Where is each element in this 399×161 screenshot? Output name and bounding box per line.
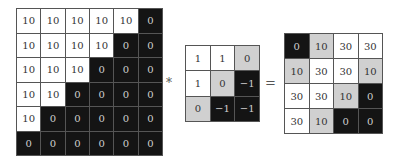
input-cell: 0 [139,132,162,156]
input-cell: 0 [41,107,64,131]
kernel-cell: 0 [235,46,259,70]
kernel-cell: 0 [211,71,235,95]
input-matrix: 1010101010010101010001010100001010000010… [16,8,163,156]
input-cell: 10 [17,9,40,33]
input-cell: 0 [17,132,40,156]
input-cell: 0 [139,34,162,58]
kernel-matrix: 11010−10−1−1 [185,45,260,122]
input-cell: 0 [139,83,162,107]
input-cell: 10 [41,9,64,33]
output-cell: 30 [310,84,334,108]
output-cell: 0 [285,34,309,58]
input-cell: 10 [17,34,40,58]
input-cell: 10 [66,34,89,58]
input-cell: 10 [66,58,89,82]
output-cell: 30 [285,109,309,133]
output-cell: 10 [310,109,334,133]
kernel-cell: −1 [235,71,259,95]
input-cell: 10 [17,107,40,131]
input-cell: 0 [41,132,64,156]
kernel-cell: 0 [186,97,210,121]
input-cell: 0 [114,83,137,107]
convolution-operator: * [166,76,172,90]
input-cell: 10 [17,58,40,82]
input-cell: 0 [139,107,162,131]
input-cell: 10 [41,58,64,82]
input-cell: 0 [66,107,89,131]
input-cell: 10 [41,83,64,107]
kernel-cell: −1 [211,97,235,121]
output-cell: 30 [334,59,358,83]
output-cell: 30 [359,34,383,58]
input-cell: 0 [66,132,89,156]
kernel-cell: 1 [186,46,210,70]
input-cell: 0 [114,58,137,82]
input-cell: 0 [139,58,162,82]
input-cell: 10 [66,9,89,33]
input-cell: 10 [90,9,113,33]
output-cell: 30 [310,59,334,83]
output-matrix: 0103030103030103030100301000 [284,33,383,134]
input-cell: 0 [114,132,137,156]
equals-operator: = [265,75,276,90]
input-cell: 0 [90,58,113,82]
output-cell: 10 [285,59,309,83]
output-cell: 0 [334,109,358,133]
output-cell: 10 [310,34,334,58]
output-cell: 10 [359,59,383,83]
input-cell: 10 [41,34,64,58]
output-cell: 0 [359,84,383,108]
output-cell: 30 [285,84,309,108]
kernel-cell: −1 [235,97,259,121]
input-cell: 10 [114,9,137,33]
input-cell: 10 [90,34,113,58]
kernel-cell: 1 [211,46,235,70]
input-cell: 0 [66,83,89,107]
input-cell: 0 [114,34,137,58]
input-cell: 0 [114,107,137,131]
input-cell: 10 [17,83,40,107]
output-cell: 0 [359,109,383,133]
input-cell: 0 [90,107,113,131]
input-cell: 0 [139,9,162,33]
output-cell: 10 [334,84,358,108]
input-cell: 0 [90,83,113,107]
output-cell: 30 [334,34,358,58]
input-cell: 0 [90,132,113,156]
kernel-cell: 1 [186,71,210,95]
